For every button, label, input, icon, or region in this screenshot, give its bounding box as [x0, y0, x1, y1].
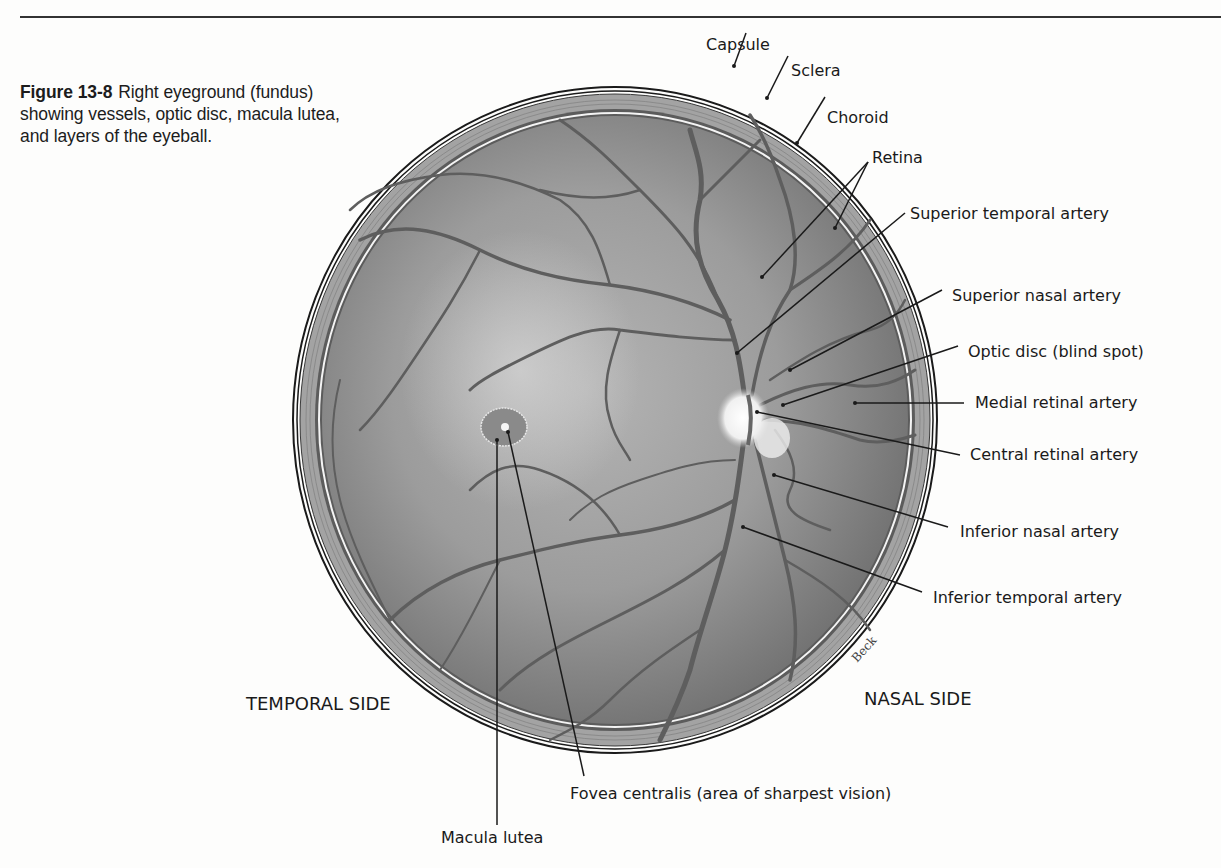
fovea-centralis: [501, 423, 509, 431]
label-fovea-centralis: Fovea centralis (area of sharpest vision…: [570, 784, 891, 803]
label-inferior-temporal-artery: Inferior temporal artery: [933, 588, 1122, 607]
fundus-sheen: [400, 230, 640, 510]
label-superior-nasal-artery: Superior nasal artery: [952, 286, 1121, 305]
label-central-retinal-artery: Central retinal artery: [970, 445, 1138, 464]
label-superior-temporal-artery: Superior temporal artery: [910, 204, 1109, 223]
label-macula-lutea: Macula lutea: [441, 828, 543, 847]
label-medial-retinal-artery: Medial retinal artery: [975, 393, 1137, 412]
label-retina: Retina: [872, 148, 923, 167]
label-capsule: Capsule: [706, 35, 770, 54]
macula-lutea: [481, 408, 527, 446]
label-temporal-side: TEMPORAL SIDE: [245, 693, 391, 714]
label-inferior-nasal-artery: Inferior nasal artery: [960, 522, 1119, 541]
label-nasal-side: NASAL SIDE: [864, 688, 972, 709]
label-choroid: Choroid: [827, 108, 889, 127]
fundus-diagram: Capsule Sclera Choroid Retina Superior t…: [0, 0, 1221, 868]
label-sclera: Sclera: [791, 61, 841, 80]
label-optic-disc: Optic disc (blind spot): [968, 342, 1144, 361]
